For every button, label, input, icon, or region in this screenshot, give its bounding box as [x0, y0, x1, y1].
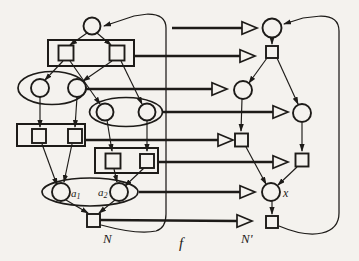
label-Nprime: N' — [240, 231, 253, 246]
left-tree: a1 a2 N — [17, 14, 166, 246]
label-f: f — [179, 235, 185, 251]
f-arrow-row-1 — [172, 22, 257, 34]
left-level4-square-c — [106, 154, 121, 169]
right-bottom-square-Nprime — [266, 216, 278, 228]
left-level4-square-a — [32, 129, 46, 143]
right-level3-circle-right — [293, 104, 311, 122]
left-leaf-circle-a2 — [110, 183, 128, 201]
f-arrow-row-2 — [135, 50, 255, 62]
left-level3-circle-a — [31, 79, 49, 97]
diagram-svg: a1 a2 N — [0, 0, 359, 261]
f-arrow-row-4 — [163, 106, 288, 118]
label-x: x — [282, 186, 289, 200]
left-leaf-circle-a1 — [52, 183, 70, 201]
right-level2-square — [266, 46, 278, 58]
left-level4-square-d — [140, 154, 154, 168]
right-circle-x — [262, 183, 280, 201]
left-level3-circle-b — [68, 79, 86, 97]
f-arrow-row-8 — [100, 215, 252, 227]
left-bottom-square-N — [87, 214, 100, 227]
right-level3-circle-left — [234, 81, 252, 99]
label-a1: a1 — [71, 187, 81, 201]
right-level4-square-right — [296, 154, 309, 167]
label-N: N — [102, 231, 113, 246]
left-level2-square-b — [110, 46, 125, 61]
right-root-circle-node — [263, 19, 282, 38]
f-arrow-row-7 — [139, 186, 255, 198]
right-level4-square-left — [235, 134, 248, 147]
f-arrow-row-3 — [86, 83, 227, 95]
left-level4-square-b — [68, 129, 82, 143]
label-a2: a2 — [98, 186, 108, 200]
left-level2-square-a — [59, 46, 74, 61]
f-arrow-row-5 — [85, 134, 233, 146]
left-root-circle-node — [84, 18, 101, 35]
left-level3-circle-d — [139, 104, 156, 121]
figure-canvas: a1 a2 N — [0, 0, 359, 261]
right-feedback-edge — [279, 16, 339, 234]
left-level3-circle-c — [97, 104, 114, 121]
f-arrow-row-6 — [158, 156, 288, 168]
right-tree: x N' — [234, 16, 339, 246]
